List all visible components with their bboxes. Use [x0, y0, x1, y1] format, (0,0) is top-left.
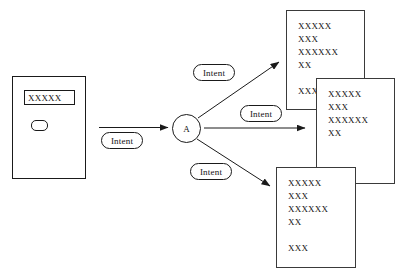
document-line: XXXXXX [288, 203, 351, 216]
document-line: XX [328, 127, 390, 140]
form-submit-button[interactable] [31, 120, 48, 131]
diagram-canvas: XXXXX Intent A Intent Intent Intent XXXX… [0, 0, 405, 276]
document-bottom-lines: XXXXX XXX XXXXXX XX XXX [288, 177, 351, 255]
node-a[interactable]: A [172, 114, 201, 143]
form-text-field-value: XXXXX [28, 93, 62, 103]
edge-label-intent-form-to-node: Intent [101, 132, 143, 149]
node-a-label: A [183, 124, 190, 134]
edge-label-intent-node-to-document-middle: Intent [240, 105, 282, 122]
document-line: XX [288, 216, 351, 229]
document-line: XXXXX [328, 88, 390, 101]
source-form-panel[interactable]: XXXXX [12, 76, 86, 179]
edge-label-text: Intent [250, 109, 272, 119]
figure-caption [0, 270, 405, 276]
document-line: XXX [328, 101, 390, 114]
document-line: XXXXXX [298, 46, 360, 59]
edge-label-text: Intent [111, 136, 133, 146]
edge-label-intent-node-to-document-bottom: Intent [190, 163, 232, 180]
edge-label-text: Intent [203, 68, 225, 78]
document-line: XX [298, 59, 360, 72]
document-middle-lines: XXXXX XXX XXXXXX XX [328, 88, 390, 140]
document-line: XXXXXX [328, 114, 390, 127]
document-line: XXX [288, 242, 351, 255]
edge-label-text: Intent [200, 167, 222, 177]
document-line: XXX [288, 190, 351, 203]
document-line: XXXXX [298, 20, 360, 33]
document-bottom[interactable]: XXXXX XXX XXXXXX XX XXX [276, 167, 356, 268]
document-line: XXXXX [288, 177, 351, 190]
edge-label-intent-node-to-document-top: Intent [193, 64, 235, 81]
form-text-field[interactable]: XXXXX [24, 90, 75, 105]
document-line: XXX [298, 33, 360, 46]
